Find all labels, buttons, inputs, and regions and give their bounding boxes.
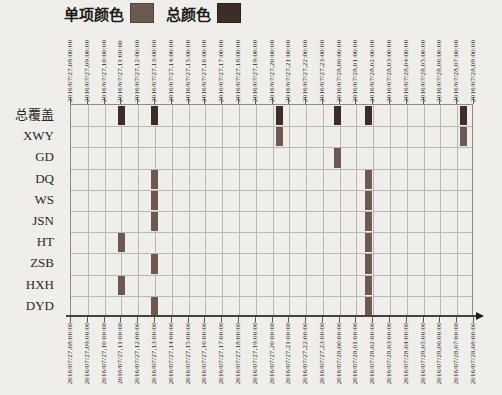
gridline-vertical bbox=[424, 105, 425, 315]
tick-mark-top bbox=[104, 97, 105, 104]
x-axis-tick-label-bottom: 2016/07/27,11:00:00 bbox=[116, 322, 125, 390]
tick-mark-top bbox=[272, 97, 273, 104]
gridline-vertical bbox=[138, 105, 139, 315]
row-label: XWY bbox=[0, 125, 62, 146]
x-axis-tick-label-top: 2016/07/27,11:00:00 bbox=[116, 34, 125, 102]
x-axis-tick-label-bottom: 2016/07/27,17:00:00 bbox=[217, 322, 226, 390]
x-axis-tick-label-bottom: 2016/07/27,19:00:00 bbox=[251, 322, 260, 390]
x-axis-tick-label-bottom: 2016/07/28,01:00:00 bbox=[351, 322, 360, 390]
gridline-horizontal bbox=[71, 169, 472, 170]
event-bar bbox=[365, 212, 372, 231]
gridline-horizontal bbox=[71, 275, 472, 276]
x-axis-tick-label-top: 2016/07/27,20:00:00 bbox=[268, 34, 277, 102]
event-bar bbox=[151, 170, 158, 189]
legend-total-color-swatch bbox=[217, 3, 241, 23]
row-label: HXH bbox=[0, 274, 62, 295]
event-bar bbox=[365, 254, 372, 273]
event-bar bbox=[276, 127, 283, 146]
event-bar bbox=[118, 106, 125, 125]
x-axis-tick-label-top: 2016/07/28,04:00:00 bbox=[402, 34, 411, 102]
x-axis-tick-label-top: 2016/07/27,13:00:00 bbox=[150, 34, 159, 102]
tick-mark-top bbox=[238, 97, 239, 104]
x-axis-tick-label-top: 2016/07/28,07:00:00 bbox=[452, 34, 461, 102]
x-axis-tick-label-top: 2016/07/27,08:00:00 bbox=[66, 34, 75, 102]
tick-mark-top bbox=[288, 97, 289, 104]
tick-mark-top bbox=[154, 97, 155, 104]
event-bar bbox=[365, 191, 372, 210]
row-label: DYD bbox=[0, 295, 62, 316]
event-bar bbox=[118, 276, 125, 295]
tick-mark-top bbox=[473, 97, 474, 104]
tick-mark-top bbox=[322, 97, 323, 104]
event-bar bbox=[276, 106, 283, 125]
x-axis-tick-label-bottom: 2016/07/28,08:00:00 bbox=[469, 322, 478, 390]
x-axis-tick-label-top: 2016/07/28,05:00:00 bbox=[419, 34, 428, 102]
event-bar bbox=[365, 233, 372, 252]
gridline-vertical bbox=[273, 105, 274, 315]
x-axis-tick-label-bottom: 2016/07/27,10:00:00 bbox=[100, 322, 109, 390]
tick-mark-top bbox=[87, 97, 88, 104]
tick-mark-top bbox=[188, 97, 189, 104]
tick-mark-top bbox=[204, 97, 205, 104]
event-bar bbox=[151, 297, 158, 316]
tick-mark-top bbox=[120, 97, 121, 104]
tick-mark-top bbox=[389, 97, 390, 104]
x-axis-tick-label-bottom: 2016/07/28,06:00:00 bbox=[435, 322, 444, 390]
x-axis-tick-label-top: 2016/07/28,01:00:00 bbox=[351, 34, 360, 102]
x-axis-tick-label-bottom: 2016/07/27,18:00:00 bbox=[234, 322, 243, 390]
gridline-vertical bbox=[289, 105, 290, 315]
tick-mark-top bbox=[406, 97, 407, 104]
x-axis-tick-label-bottom: 2016/07/28,07:00:00 bbox=[452, 322, 461, 390]
gridline-vertical bbox=[457, 105, 458, 315]
x-axis-tick-label-bottom: 2016/07/27,22:00:00 bbox=[301, 322, 310, 390]
event-bar bbox=[365, 276, 372, 295]
chart-legend: 单项颜色 总颜色 bbox=[64, 2, 253, 24]
event-bar bbox=[151, 254, 158, 273]
event-bar bbox=[118, 233, 125, 252]
tick-mark-top bbox=[171, 97, 172, 104]
x-axis-tick-label-bottom: 2016/07/27,08:00:00 bbox=[66, 322, 75, 390]
tick-mark-top bbox=[70, 97, 71, 104]
event-bar bbox=[151, 191, 158, 210]
legend-item-color-swatch bbox=[130, 3, 154, 23]
event-bar bbox=[334, 148, 341, 167]
tick-mark-top bbox=[339, 97, 340, 104]
gridline-horizontal bbox=[71, 232, 472, 233]
gridline-vertical bbox=[88, 105, 89, 315]
tick-mark-top bbox=[423, 97, 424, 104]
tick-mark-top bbox=[221, 97, 222, 104]
gridline-horizontal bbox=[71, 126, 472, 127]
event-bar bbox=[334, 106, 341, 125]
gridline-vertical bbox=[340, 105, 341, 315]
plot-area bbox=[70, 104, 473, 316]
legend-item-color-label: 单项颜色 bbox=[64, 3, 124, 24]
gridline-horizontal bbox=[71, 190, 472, 191]
x-axis-tick-label-bottom: 2016/07/28,03:00:00 bbox=[385, 322, 394, 390]
x-axis-tick-label-top: 2016/07/28,06:00:00 bbox=[435, 34, 444, 102]
x-axis-tick-label-top: 2016/07/27,22:00:00 bbox=[301, 34, 310, 102]
gridline-horizontal bbox=[71, 296, 472, 297]
x-axis-tick-label-bottom: 2016/07/27,15:00:00 bbox=[184, 322, 193, 390]
event-bar bbox=[365, 106, 372, 125]
x-axis-tick-label-top: 2016/07/27,14:00:00 bbox=[167, 34, 176, 102]
x-axis-tick-label-bottom: 2016/07/28,00:00:00 bbox=[335, 322, 344, 390]
gridline-vertical bbox=[105, 105, 106, 315]
gridline-horizontal bbox=[71, 253, 472, 254]
event-bar bbox=[460, 106, 467, 125]
event-bar bbox=[151, 106, 158, 125]
x-axis-tick-label-bottom: 2016/07/27,23:00:00 bbox=[318, 322, 327, 390]
row-label: GD bbox=[0, 146, 62, 167]
x-axis-tick-label-top: 2016/07/27,10:00:00 bbox=[100, 34, 109, 102]
x-axis-tick-label-top: 2016/07/27,19:00:00 bbox=[251, 34, 260, 102]
tick-mark-top bbox=[137, 97, 138, 104]
row-label: DQ bbox=[0, 168, 62, 189]
gridline-vertical bbox=[373, 105, 374, 315]
x-axis-tick-label-bottom: 2016/07/27,13:00:00 bbox=[150, 322, 159, 390]
legend-total-color-label: 总颜色 bbox=[166, 3, 211, 24]
x-axis-tick-label-top: 2016/07/27,23:00:00 bbox=[318, 34, 327, 102]
x-axis-tick-label-top: 2016/07/27,15:00:00 bbox=[184, 34, 193, 102]
x-axis-tick-label-bottom: 2016/07/28,04:00:00 bbox=[402, 322, 411, 390]
x-axis-arrow-icon bbox=[476, 312, 484, 320]
tick-mark-top bbox=[456, 97, 457, 104]
x-axis-tick-label-bottom: 2016/07/27,09:00:00 bbox=[83, 322, 92, 390]
